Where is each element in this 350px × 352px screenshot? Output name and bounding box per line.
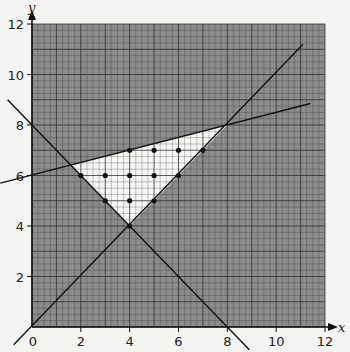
y-tick-label: 12 bbox=[7, 17, 24, 32]
y-axis-label: y bbox=[27, 0, 36, 15]
x-tick-label: 10 bbox=[268, 334, 285, 349]
y-tick-label: 6 bbox=[16, 169, 24, 184]
lattice-point bbox=[151, 173, 156, 178]
x-tick-label: 12 bbox=[317, 334, 334, 349]
lattice-point bbox=[200, 148, 205, 153]
x-tick-label: 0 bbox=[29, 334, 37, 349]
lattice-point bbox=[176, 148, 181, 153]
lattice-point bbox=[151, 198, 156, 203]
y-tick-label: 10 bbox=[7, 68, 24, 83]
y-tick-label: 2 bbox=[16, 270, 24, 285]
inequality-graph: 02468101224681012 x y bbox=[0, 0, 350, 352]
lattice-point bbox=[103, 198, 108, 203]
lattice-point bbox=[151, 148, 156, 153]
lattice-point bbox=[127, 223, 132, 228]
lattice-point bbox=[127, 173, 132, 178]
y-tick-label: 8 bbox=[16, 118, 24, 133]
lattice-point bbox=[127, 198, 132, 203]
lattice-point bbox=[78, 173, 83, 178]
y-tick-label: 4 bbox=[16, 219, 24, 234]
x-tick-label: 4 bbox=[126, 334, 134, 349]
lattice-point bbox=[103, 173, 108, 178]
x-tick-label: 8 bbox=[223, 334, 231, 349]
lattice-point bbox=[176, 173, 181, 178]
x-axis-label: x bbox=[338, 320, 346, 335]
x-tick-label: 2 bbox=[77, 334, 85, 349]
x-tick-label: 6 bbox=[174, 334, 182, 349]
x-axis-arrow-icon bbox=[328, 323, 338, 331]
lattice-point bbox=[127, 148, 132, 153]
